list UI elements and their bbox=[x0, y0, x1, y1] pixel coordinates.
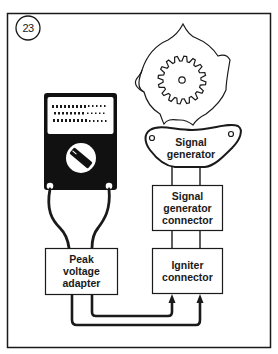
arrowheads bbox=[169, 294, 204, 303]
signal-generator-label: Signal generator bbox=[150, 136, 232, 160]
meter-leads bbox=[49, 189, 110, 248]
rotor-icon bbox=[135, 24, 230, 125]
peak-voltage-adapter-label: Peak voltage adapter bbox=[45, 253, 118, 289]
igniter-connector-label: Igniter connector bbox=[152, 259, 223, 283]
arrow-up-icon bbox=[169, 294, 176, 303]
diagram-canvas bbox=[0, 0, 278, 354]
multimeter-icon bbox=[44, 93, 117, 190]
diagram-figure: 23 Signal generator Signal generator con… bbox=[0, 0, 278, 354]
adapter-leads bbox=[72, 295, 200, 325]
arrow-up-icon bbox=[197, 294, 204, 303]
figure-number: 23 bbox=[16, 16, 40, 40]
signal-generator-connector-label: Signal generator connector bbox=[152, 190, 223, 226]
